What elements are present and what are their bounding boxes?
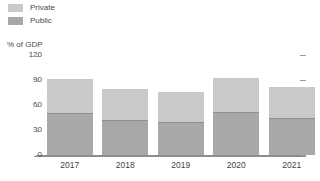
bar-2020	[213, 78, 259, 156]
y-axis-tick: 30	[0, 125, 42, 135]
x-axis-tick-label: 2020	[209, 160, 265, 170]
bar-segment-private	[102, 89, 148, 120]
bar-segment-private	[47, 79, 93, 113]
bar-2021	[269, 87, 315, 155]
x-axis-tick-label: 2021	[264, 160, 320, 170]
legend-label-public: Public	[30, 16, 52, 25]
right-axis-tick-mark	[300, 80, 306, 81]
x-axis-tick-label: 2017	[42, 160, 98, 170]
legend-item-private: Private	[8, 2, 55, 13]
y-axis-tick-mark	[34, 56, 39, 57]
y-axis-tick-mark	[34, 156, 39, 157]
y-axis-tick-mark	[34, 106, 39, 107]
bar-segment-public	[269, 118, 315, 155]
y-axis-tick-label: 60	[33, 100, 42, 109]
y-axis-tick: 120	[0, 50, 42, 60]
y-axis-tick: 90	[0, 75, 42, 85]
y-axis-tick-mark	[34, 81, 39, 82]
bar-segment-public	[213, 112, 259, 155]
legend-swatch-public	[8, 17, 23, 25]
bar-segment-private	[269, 87, 315, 119]
y-axis-tick: 0	[0, 150, 42, 160]
right-axis-tick-mark	[300, 155, 306, 156]
bar-segment-public	[47, 113, 93, 155]
chart-container: Private Public % of GDP 1209060300201720…	[0, 0, 320, 181]
legend-label-private: Private	[30, 3, 55, 12]
right-axis-tick-mark	[300, 55, 306, 56]
y-axis-tick: 60	[0, 100, 42, 110]
x-axis-tick-label: 2019	[153, 160, 209, 170]
legend-swatch-private	[8, 4, 23, 12]
bar-segment-public	[158, 122, 204, 155]
legend-item-public: Public	[8, 15, 55, 26]
y-axis-tick-label: 30	[33, 125, 42, 134]
x-axis-tick-label: 2018	[98, 160, 154, 170]
y-axis-tick-label: 120	[29, 50, 42, 59]
y-axis-tick-label: 0	[38, 150, 42, 159]
y-axis-title: % of GDP	[7, 40, 43, 49]
bar-segment-public	[102, 120, 148, 155]
bar-2019	[158, 92, 204, 155]
bar-2017	[47, 79, 93, 155]
bar-segment-private	[158, 92, 204, 122]
y-axis-tick-mark	[34, 131, 39, 132]
chart-legend: Private Public	[8, 2, 55, 28]
bar-segment-private	[213, 78, 259, 112]
bar-2018	[102, 89, 148, 155]
y-axis-tick-label: 90	[33, 75, 42, 84]
x-axis-line	[36, 155, 306, 157]
